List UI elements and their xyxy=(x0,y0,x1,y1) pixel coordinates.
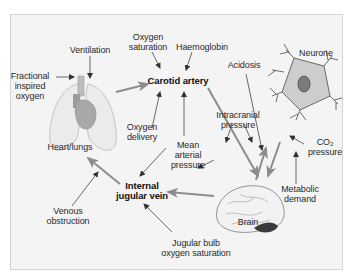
jugular-bulb-oxygen-saturation-label: Jugular bulboxygen saturation xyxy=(161,238,230,258)
venous-obstruction-label: Venousobstruction xyxy=(47,206,90,226)
fractional-inspired-oxygen-label: Fractionalinspiredoxygen xyxy=(11,71,50,101)
heart-lungs-label: Heart/lungs xyxy=(48,142,93,152)
brain-label: Brain xyxy=(238,217,259,227)
oxygen-delivery-label: Oxygendelivery xyxy=(127,122,157,142)
metabolic-demand-label: Metabolicdemand xyxy=(281,184,319,204)
diagram-artwork xyxy=(0,0,349,277)
neurone-label: Neurone xyxy=(299,48,333,58)
heart-lungs-icon xyxy=(50,76,117,150)
intracranial-pressure-label: Intracranialpressure xyxy=(216,110,259,130)
acidosis-label: Acidosis xyxy=(228,60,261,70)
ventilation-label: Ventilation xyxy=(70,45,110,55)
co2-pressure-label: CO₂pressure xyxy=(308,137,342,157)
haemoglobin-label: Haemoglobin xyxy=(176,42,228,52)
oxygen-saturation-label: Oxygensaturation xyxy=(129,32,168,52)
mean-arterial-pressure-label: Meanarterialpressure xyxy=(171,140,205,170)
internal-jugular-vein-label: Internaljugular vein xyxy=(116,181,168,201)
carotid-artery-label: Carotid artery xyxy=(148,76,209,86)
